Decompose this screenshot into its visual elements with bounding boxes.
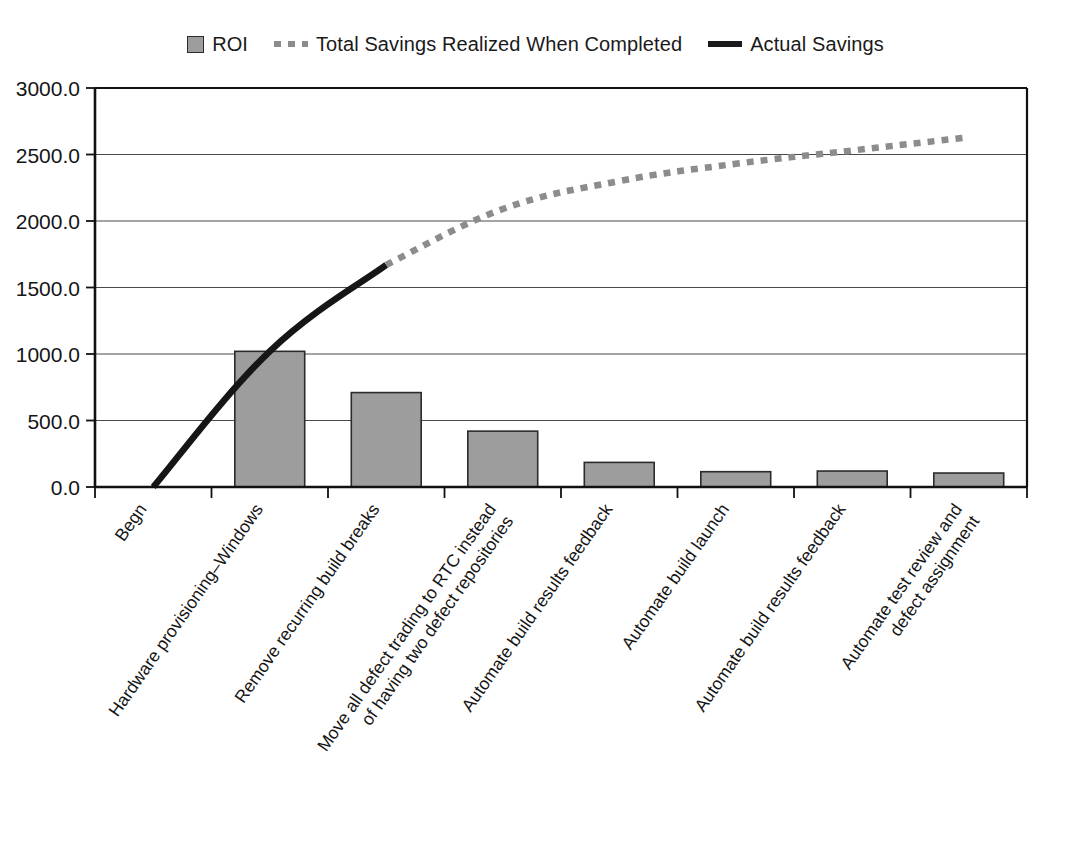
x-tick-label: Automate build launch <box>617 500 733 653</box>
bar <box>584 462 654 487</box>
bar <box>351 393 421 487</box>
x-axis-ticks <box>95 487 1027 498</box>
bar <box>817 471 887 487</box>
plot-area: 0.0500.01000.01500.02000.02500.03000.0 B… <box>0 0 1071 860</box>
roi-savings-chart: ROI Total Savings Realized When Complete… <box>0 0 1071 860</box>
bar <box>701 472 771 487</box>
y-axis-ticks: 0.0500.01000.01500.02000.02500.03000.0 <box>16 77 95 499</box>
x-axis-label-group: Automate build launch <box>617 500 733 653</box>
bar-series <box>235 351 1004 487</box>
x-tick-label: of having two defect repositories <box>357 512 517 729</box>
bar <box>468 431 538 487</box>
x-axis-label-group: Automate test review anddefect assignmen… <box>836 500 983 685</box>
y-tick-label: 3000.0 <box>16 77 80 100</box>
y-tick-label: 500.0 <box>27 410 80 433</box>
x-axis-labels: BegnHardware provisioning–WindowsRemove … <box>104 500 983 767</box>
y-tick-label: 1500.0 <box>16 277 80 300</box>
dashed-trend-line <box>386 137 969 265</box>
y-tick-label: 0.0 <box>51 476 80 499</box>
y-tick-label: 2000.0 <box>16 210 80 233</box>
x-tick-label: Automate test review and <box>836 500 966 673</box>
y-tick-label: 2500.0 <box>16 144 80 167</box>
y-tick-label: 1000.0 <box>16 343 80 366</box>
chart-svg: 0.0500.01000.01500.02000.02500.03000.0 B… <box>0 0 1071 860</box>
x-axis-label-group: Begn <box>111 500 151 545</box>
x-tick-label: Begn <box>111 500 151 545</box>
bar <box>934 473 1004 487</box>
